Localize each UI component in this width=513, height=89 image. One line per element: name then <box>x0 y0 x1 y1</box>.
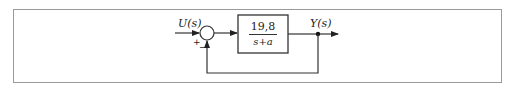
tf-denominator: s+a <box>253 35 272 47</box>
input-label: U(s) <box>178 18 202 29</box>
minus-sign: − <box>199 43 207 52</box>
tf-numerator: 19,8 <box>251 21 276 34</box>
transfer-function: 19,8 s+a <box>238 15 288 53</box>
summing-junction <box>200 26 214 40</box>
output-label: Y(s) <box>310 18 332 29</box>
